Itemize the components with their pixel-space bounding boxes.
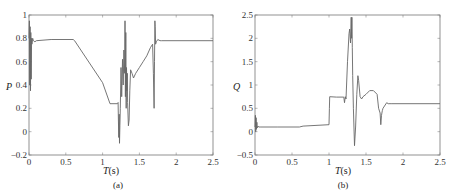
y-tick-label: 0 [23, 127, 28, 137]
y-tick-label: −0.5 [237, 150, 254, 160]
y-tick-label: 0.8 [16, 33, 28, 43]
y-tick-label: 0.4 [16, 80, 28, 90]
figure: 00.511.522.5−0.200.20.40.60.81 P T(s) (a… [0, 0, 454, 196]
x-tick-label: 2.5 [434, 157, 446, 167]
x-tick-label: 0.5 [286, 157, 298, 167]
line-series-q [255, 17, 440, 145]
x-tick-label: 2.5 [207, 157, 219, 167]
y-axis-label-b: Q [233, 81, 241, 92]
y-tick-label: 0 [249, 127, 254, 137]
x-tick-label: 2 [174, 157, 179, 167]
x-tick-label: 0 [253, 157, 258, 167]
x-axis-label-b: T(s) [335, 165, 351, 177]
x-axis-label-a: T(s) [103, 165, 119, 177]
y-tick-label: 0.2 [16, 103, 27, 113]
y-tick-label: 0.6 [16, 57, 28, 67]
axis-ticks-b: 00.511.522.5−0.500.511.522.5 [237, 10, 446, 167]
y-axis-label-a: P [5, 81, 12, 92]
y-tick-label: 1 [249, 80, 254, 90]
plot-frame-b [255, 15, 440, 155]
y-tick-label: 0.5 [242, 103, 254, 113]
y-tick-label: 2.5 [242, 10, 254, 20]
x-tick-label: 0 [27, 157, 32, 167]
x-tick-label: 2 [401, 157, 406, 167]
x-tick-label: 1.5 [134, 157, 146, 167]
y-tick-label: 2 [249, 33, 254, 43]
chart-panel-a: 00.511.522.5−0.200.20.40.60.81 P T(s) (a… [5, 10, 219, 190]
chart-panel-b: 00.511.522.5−0.500.511.522.5 Q T(s) (b) [233, 10, 446, 190]
axis-ticks-a: 00.511.522.5−0.200.20.40.60.81 [11, 10, 219, 167]
caption-b: (b) [338, 180, 349, 190]
x-tick-label: 0.5 [60, 157, 72, 167]
x-tick-label: 1 [327, 157, 332, 167]
y-tick-label: 1.5 [242, 57, 254, 67]
x-axis-unit-a: (s) [109, 165, 120, 177]
line-series-p [29, 21, 213, 144]
x-axis-unit-b: (s) [341, 165, 352, 177]
y-tick-label: −0.2 [11, 150, 27, 160]
y-tick-label: 1 [23, 10, 28, 20]
caption-a: (a) [113, 180, 123, 190]
x-tick-label: 1.5 [360, 157, 372, 167]
